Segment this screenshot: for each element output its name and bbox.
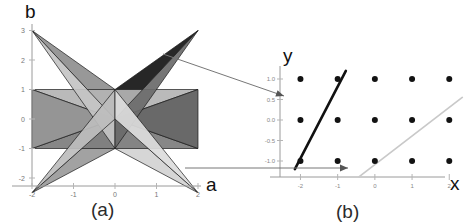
annotation-arrow-diagonal-head — [275, 90, 284, 96]
annotation-arrows — [163, 54, 348, 171]
annotation-arrow-horizontal-head — [340, 165, 348, 172]
annotation-arrow-diagonal-shaft — [163, 54, 284, 96]
annotation-arrow-overlay — [0, 0, 464, 224]
figure-container: -2-10123210-1-2 b a (a) -2-10121.00.50.0… — [0, 0, 464, 224]
